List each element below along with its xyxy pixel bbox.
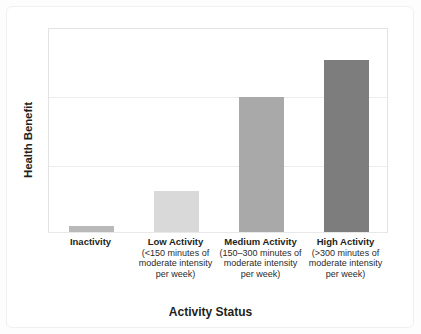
category-detail-line: per week)	[133, 269, 218, 280]
category-detail-line: moderate intensity	[133, 258, 218, 269]
category-label-inactivity: Inactivity	[48, 236, 133, 248]
x-axis-category-labels: InactivityLow Activity(<150 minutes ofmo…	[48, 236, 388, 298]
bar-series	[49, 29, 387, 232]
chart-figure: Health Benefit InactivityLow Activity(<1…	[0, 0, 421, 334]
category-detail-line: per week)	[218, 269, 303, 280]
category-label-low-activity: Low Activity(<150 minutes ofmoderate int…	[133, 236, 218, 279]
category-name: Medium Activity	[218, 236, 303, 248]
category-detail-line: per week)	[303, 269, 388, 280]
bar-high-activity	[324, 60, 369, 232]
category-name: Inactivity	[48, 236, 133, 248]
category-label-medium-activity: Medium Activity(150–300 minutes ofmodera…	[218, 236, 303, 279]
category-detail-line: (150–300 minutes of	[218, 248, 303, 259]
x-axis-title: Activity Status	[0, 305, 421, 319]
y-axis-title: Health Benefit	[16, 62, 40, 218]
category-detail-line: moderate intensity	[218, 258, 303, 269]
plot-area	[48, 28, 388, 233]
category-detail-line: moderate intensity	[303, 258, 388, 269]
category-name: High Activity	[303, 236, 388, 248]
bar-inactivity	[69, 226, 114, 232]
category-label-high-activity: High Activity(>300 minutes ofmoderate in…	[303, 236, 388, 279]
y-axis-title-label: Health Benefit	[22, 102, 34, 178]
category-detail-line: (<150 minutes of	[133, 248, 218, 259]
category-name: Low Activity	[133, 236, 218, 248]
bar-low-activity	[154, 191, 199, 232]
bar-medium-activity	[239, 97, 284, 232]
category-detail-line: (>300 minutes of	[303, 248, 388, 259]
